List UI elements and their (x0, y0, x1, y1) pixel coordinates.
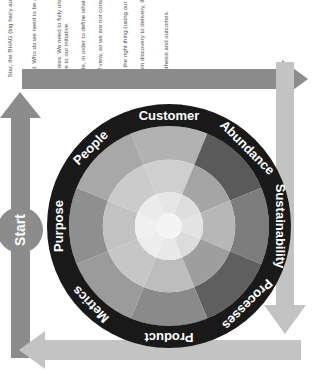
start-label: Start (12, 214, 28, 246)
wheel-label-customer[interactable]: Customer (139, 108, 200, 123)
wheel-hub (156, 213, 182, 239)
wheel-label-product[interactable]: Product (144, 330, 194, 345)
wheel-label-sustainability[interactable]: Sustainability (273, 184, 288, 269)
wheel-segment-product[interactable] (131, 287, 208, 326)
capability-wheel: CustomerAbundanceSustainabilityProcesses… (44, 101, 294, 351)
arrow-top-right (22, 60, 308, 98)
start-node[interactable]: Start (0, 207, 43, 253)
wheel-segment-sustainability[interactable] (230, 188, 269, 265)
wheel-segment-purpose[interactable] (69, 188, 108, 265)
wheel-segment-customer[interactable] (131, 126, 208, 165)
wheel-label-purpose[interactable]: Purpose (51, 200, 66, 252)
